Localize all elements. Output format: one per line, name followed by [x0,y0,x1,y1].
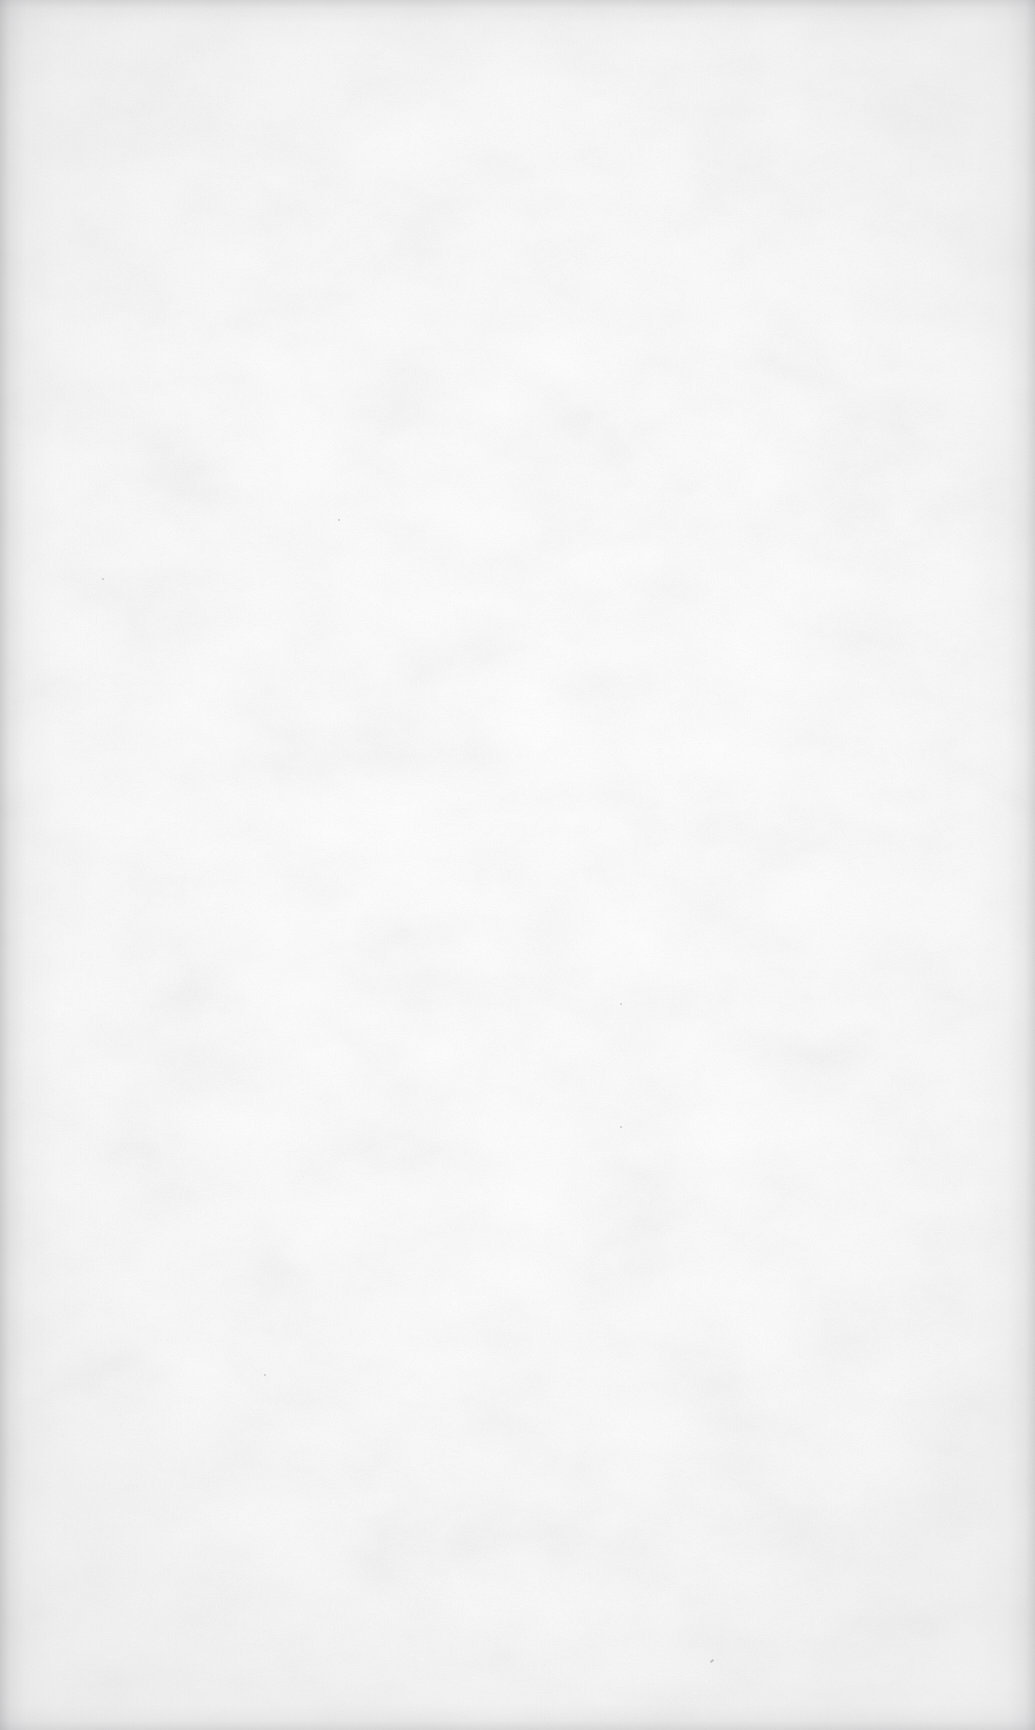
scanned-page: Blank scanned page — no text, figures, r… [0,0,1035,1730]
paper-surface [0,0,1035,1730]
